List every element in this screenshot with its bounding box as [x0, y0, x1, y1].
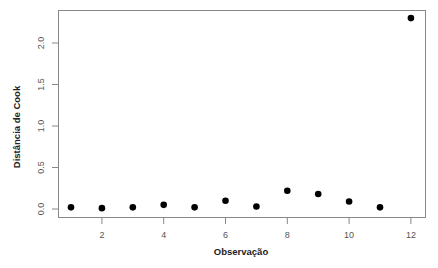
data-point — [130, 204, 137, 211]
data-point — [222, 197, 229, 204]
data-point — [315, 191, 322, 198]
data-point — [377, 204, 384, 211]
data-point — [68, 204, 75, 211]
data-point — [160, 202, 167, 209]
data-point — [284, 187, 291, 194]
x-tick-label: 4 — [161, 230, 166, 240]
data-point — [253, 203, 260, 210]
x-tick-label: 8 — [285, 230, 290, 240]
x-tick-label: 12 — [406, 230, 416, 240]
data-point — [408, 15, 415, 22]
data-point — [346, 198, 353, 205]
x-axis-title: Observação — [214, 246, 269, 257]
y-tick-label: 0.0 — [36, 203, 46, 216]
cooks-distance-chart: 0.00.51.01.52.0 24681012 Observação Dist… — [0, 0, 438, 268]
y-tick-label: 2.0 — [36, 37, 46, 50]
x-axis: 24681012 — [99, 218, 416, 241]
y-tick-label: 1.5 — [36, 78, 46, 91]
x-tick-label: 2 — [99, 230, 104, 240]
data-point — [191, 204, 198, 211]
y-tick-label: 1.0 — [36, 120, 46, 133]
x-tick-label: 10 — [344, 230, 354, 240]
plot-box — [59, 11, 426, 218]
y-axis-title: Distância de Cook — [11, 85, 22, 168]
data-points — [68, 15, 415, 212]
y-axis: 0.00.51.01.52.0 — [36, 37, 59, 216]
x-tick-label: 6 — [223, 230, 228, 240]
y-tick-label: 0.5 — [36, 161, 46, 174]
data-point — [99, 205, 106, 212]
